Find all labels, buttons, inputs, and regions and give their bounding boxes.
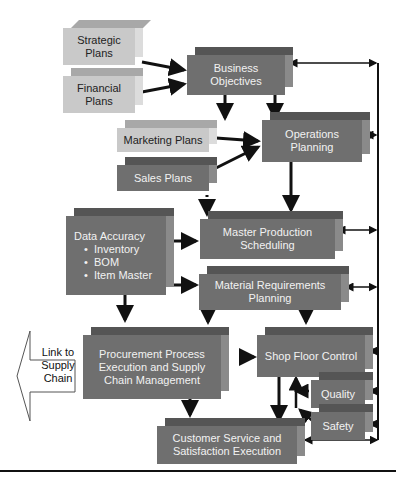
procurement-box: Procurement Process Execution and Supply… (83, 327, 229, 399)
sales-plans-box: Sales Plans (117, 157, 217, 191)
marketing-plans-label: Marketing Plans (124, 134, 203, 147)
customer-service-label: Customer Service and Satisfaction Execut… (162, 432, 292, 458)
strategic-plans-label: Strategic Plans (63, 34, 135, 60)
operations-planning-box: Operations Planning (262, 112, 370, 162)
customer-service-box: Customer Service and Satisfaction Execut… (157, 418, 305, 464)
data-accuracy-title: Data Accuracy (74, 230, 145, 243)
data-accuracy-item-bom: BOM (74, 256, 119, 269)
bottom-divider (0, 470, 396, 472)
data-accuracy-box: Data Accuracy Inventory BOM Item Master (66, 208, 174, 295)
quality-box: Quality (311, 372, 373, 408)
sales-plans-label: Sales Plans (134, 172, 192, 185)
financial-plans-box: Financial Plans (63, 68, 143, 113)
financial-plans-label: Financial Plans (74, 82, 124, 108)
operations-planning-label: Operations Planning (277, 128, 347, 154)
strategic-plans-box: Strategic Plans (63, 20, 143, 65)
mrp-label: Material Requirements Planning (205, 279, 335, 305)
data-accuracy-item-master: Item Master (74, 269, 152, 282)
mps-label: Master Production Scheduling (218, 226, 318, 252)
business-objectives-box: Business Objectives (187, 47, 293, 95)
marketing-plans-box: Marketing Plans (117, 120, 217, 152)
safety-label: Safety (322, 420, 353, 433)
procurement-label: Procurement Process Execution and Supply… (92, 348, 212, 387)
data-accuracy-item-inventory: Inventory (74, 243, 139, 256)
quality-label: Quality (321, 388, 355, 401)
master-production-scheduling-box: Master Production Scheduling (200, 211, 343, 259)
material-requirements-planning-box: Material Requirements Planning (199, 266, 349, 310)
shop-floor-control-label: Shop Floor Control (265, 350, 357, 363)
link-to-supply-chain-label: Link to Supply Chain (40, 346, 76, 385)
business-objectives-label: Business Objectives (201, 62, 271, 88)
shop-floor-control-box: Shop Floor Control (257, 327, 373, 377)
safety-box: Safety (311, 404, 373, 440)
